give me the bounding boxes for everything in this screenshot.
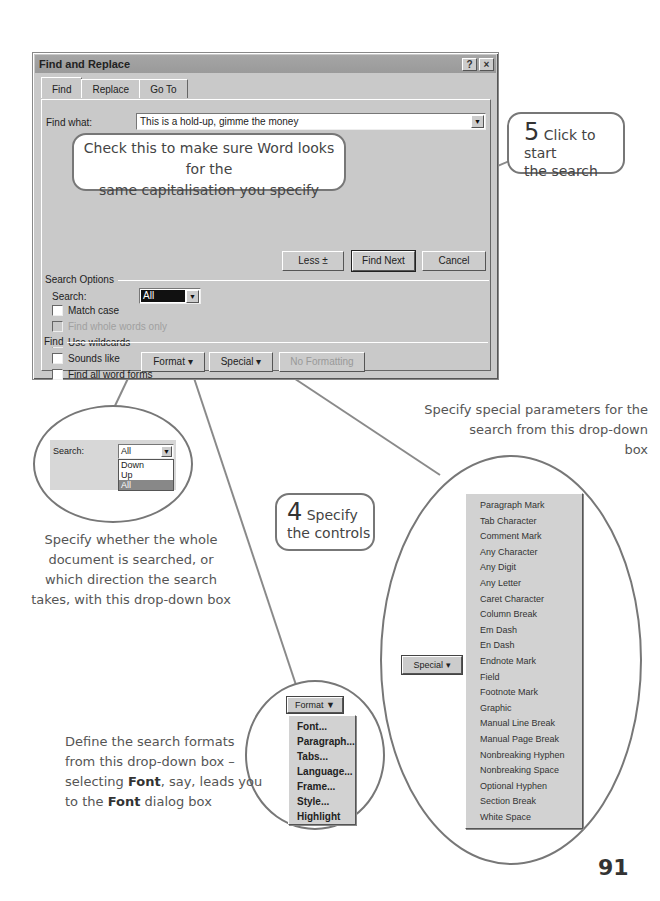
search-inset-label: Search: [53, 446, 84, 456]
menu-item-field[interactable]: Field [466, 670, 582, 686]
format-caption: Define the search formats from this drop… [65, 732, 265, 813]
menu-item-section-break[interactable]: Section Break [466, 794, 582, 810]
callout-line: same capitalisation you specify [74, 180, 344, 201]
whole-words-checkbox[interactable]: Find whole words only [52, 321, 167, 332]
callout-line: the controls [287, 524, 373, 542]
dialog-title: Find and Replace [35, 58, 462, 70]
find-what-input[interactable]: This is a hold-up, gimme the money ▼ [136, 113, 486, 130]
checkbox-label: Find whole words only [68, 321, 167, 332]
checkbox-box[interactable] [52, 353, 63, 364]
menu-item-font[interactable]: Font... [289, 719, 355, 734]
match-case-checkbox[interactable]: Match case [52, 305, 119, 316]
menu-item-highlight[interactable]: Highlight [289, 809, 355, 824]
option-up[interactable]: Up [119, 470, 173, 480]
special-menu: Paragraph Mark Tab Character Comment Mar… [465, 493, 583, 829]
caption-line: search from this drop-down [380, 420, 648, 440]
callout-line: the search [524, 162, 623, 180]
search-inset-panel: Search: All ▼ Down Up All [50, 440, 176, 490]
step4-callout: 4 Specify the controls [275, 493, 375, 551]
find-group-divider [44, 342, 488, 343]
step5-callout: 5 Click to start the search [507, 112, 625, 174]
menu-item-white-space[interactable]: White Space [466, 810, 582, 826]
search-options-label: Search Options [45, 274, 118, 285]
page-number: 91 [598, 855, 629, 880]
format-button[interactable]: Format ▾ [141, 352, 205, 372]
search-inset-options: Down Up All [118, 459, 174, 491]
menu-item-paragraph[interactable]: Paragraph... [289, 734, 355, 749]
help-button[interactable]: ? [462, 58, 477, 71]
menu-item-nonbreaking-hyphen[interactable]: Nonbreaking Hyphen [466, 748, 582, 764]
menu-item-paragraph-mark[interactable]: Paragraph Mark [466, 498, 582, 514]
checkbox-box[interactable] [52, 321, 63, 332]
menu-item-language[interactable]: Language... [289, 764, 355, 779]
menu-item-tabs[interactable]: Tabs... [289, 749, 355, 764]
dropdown-arrow-icon[interactable]: ▼ [161, 446, 172, 457]
search-direction-select[interactable]: All ▼ [139, 288, 201, 304]
checkbox-label: Find all word forms [68, 369, 152, 380]
menu-item-style[interactable]: Style... [289, 794, 355, 809]
find-replace-dialog: Find and Replace ? × Find Replace Go To … [32, 52, 499, 380]
option-all[interactable]: All [119, 480, 173, 490]
search-direction-value: All [141, 290, 185, 302]
caption-line: selecting Font, say, leads you [65, 772, 265, 792]
less-button[interactable]: Less ± [282, 251, 344, 271]
caption-line: Define the search formats [65, 732, 265, 752]
caption-line: from this drop-down box – [65, 752, 265, 772]
dialog-titlebar[interactable]: Find and Replace ? × [35, 55, 496, 73]
menu-item-em-dash[interactable]: Em Dash [466, 623, 582, 639]
callout-line: Specify [307, 507, 358, 523]
menu-item-manual-page-break[interactable]: Manual Page Break [466, 732, 582, 748]
search-inset-value: All [121, 446, 131, 456]
menu-item-any-character[interactable]: Any Character [466, 545, 582, 561]
find-what-value: This is a hold-up, gimme the money [140, 116, 298, 127]
no-formatting-button[interactable]: No Formatting [279, 352, 365, 372]
menu-item-any-letter[interactable]: Any Letter [466, 576, 582, 592]
word-forms-checkbox[interactable]: Find all word forms [52, 369, 152, 380]
search-dropdown-arrow-icon[interactable]: ▼ [186, 290, 199, 303]
find-what-label: Find what: [46, 117, 92, 128]
format-inset-button[interactable]: Format ▼ [287, 697, 343, 713]
find-what-dropdown-arrow-icon[interactable]: ▼ [471, 115, 484, 128]
caption-line: Specify whether the whole [20, 530, 242, 550]
tab-goto[interactable]: Go To [139, 79, 188, 98]
search-inset-select[interactable]: All ▼ [118, 444, 174, 459]
find-next-button[interactable]: Find Next [352, 251, 415, 271]
menu-item-manual-line-break[interactable]: Manual Line Break [466, 716, 582, 732]
tab-replace[interactable]: Replace [81, 79, 140, 98]
menu-item-column-break[interactable]: Column Break [466, 607, 582, 623]
step-number: 5 [524, 118, 539, 146]
menu-item-comment-mark[interactable]: Comment Mark [466, 529, 582, 545]
caption-line: Specify special parameters for the [380, 400, 648, 420]
menu-item-tab-character[interactable]: Tab Character [466, 514, 582, 530]
menu-item-any-digit[interactable]: Any Digit [466, 560, 582, 576]
find-group-label: Find [44, 336, 67, 347]
cancel-button[interactable]: Cancel [422, 251, 486, 271]
dialog-tabs: Find Replace Go To [41, 79, 187, 98]
menu-item-en-dash[interactable]: En Dash [466, 638, 582, 654]
checkbox-box[interactable] [52, 305, 63, 316]
menu-item-nonbreaking-space[interactable]: Nonbreaking Space [466, 763, 582, 779]
menu-item-frame[interactable]: Frame... [289, 779, 355, 794]
special-button[interactable]: Special ▾ [209, 352, 273, 372]
checkbox-label: Sounds like [68, 353, 120, 364]
menu-item-graphic[interactable]: Graphic [466, 701, 582, 717]
step-number: 4 [287, 498, 302, 526]
menu-item-optional-hyphen[interactable]: Optional Hyphen [466, 779, 582, 795]
close-button[interactable]: × [479, 58, 494, 71]
format-menu: Font... Paragraph... Tabs... Language...… [288, 715, 356, 825]
search-caption: Specify whether the whole document is se… [20, 530, 242, 611]
checkbox-box[interactable] [52, 369, 63, 380]
search-label: Search: [52, 291, 86, 302]
special-caption: Specify special parameters for the searc… [380, 400, 648, 460]
match-case-callout: Check this to make sure Word looks for t… [72, 133, 346, 191]
callout-line: Check this to make sure Word looks for t… [74, 138, 344, 180]
option-down[interactable]: Down [119, 460, 173, 470]
tab-find[interactable]: Find [41, 77, 82, 98]
special-inset-button[interactable]: Special ▾ [402, 656, 462, 674]
menu-item-caret-character[interactable]: Caret Character [466, 592, 582, 608]
menu-item-footnote-mark[interactable]: Footnote Mark [466, 685, 582, 701]
sounds-like-checkbox[interactable]: Sounds like [52, 353, 120, 364]
caption-line: document is searched, or [20, 550, 242, 570]
menu-item-endnote-mark[interactable]: Endnote Mark [466, 654, 582, 670]
caption-line: which direction the search [20, 570, 242, 590]
